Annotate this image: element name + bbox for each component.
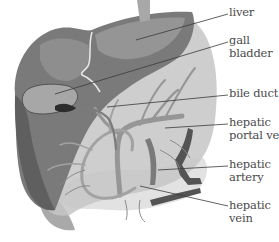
label-gall-bladder: gall bladder	[229, 34, 273, 60]
label-hepatic-vein: hepatic vein	[229, 199, 271, 225]
label-bile-duct-text: bile duct	[229, 87, 278, 100]
label-hepatic-portal-vein-line2: portal vein	[229, 129, 279, 142]
label-liver: liver	[229, 6, 254, 19]
label-hepatic-portal-vein: hepatic portal vein	[229, 116, 279, 142]
label-bile-duct: bile duct	[229, 87, 278, 100]
label-hepatic-artery: hepatic artery	[229, 158, 271, 184]
label-hepatic-artery-line2: artery	[229, 171, 271, 184]
label-hepatic-vein-line2: vein	[229, 212, 271, 225]
label-liver-text: liver	[229, 6, 254, 19]
label-gall-bladder-line2: bladder	[229, 47, 273, 60]
